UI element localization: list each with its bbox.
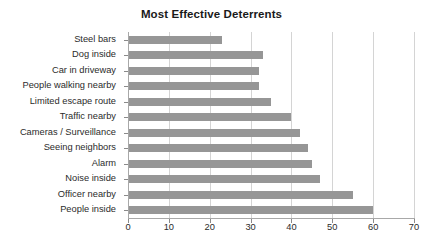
x-tick-label: 0 — [125, 222, 130, 232]
x-tick-label: 20 — [205, 222, 215, 232]
bar-row — [128, 32, 414, 48]
bar-row — [128, 79, 414, 95]
y-tick-mark — [124, 179, 128, 180]
bar[interactable] — [128, 113, 291, 121]
y-tick-mark — [124, 117, 128, 118]
y-tick-label: Cameras / Surveillance — [0, 127, 122, 137]
bar-row — [128, 48, 414, 64]
chart-title: Most Effective Deterrents — [0, 8, 423, 20]
y-tick-label: Noise inside — [0, 173, 122, 183]
y-tick-label: Seeing neighbors — [0, 142, 122, 152]
y-tick-label: Limited escape route — [0, 96, 122, 106]
y-tick-label: Steel bars — [0, 34, 122, 44]
bar-row — [128, 63, 414, 79]
bar-row — [128, 94, 414, 110]
bar[interactable] — [128, 67, 259, 75]
bar[interactable] — [128, 129, 300, 137]
chart-container: Most Effective Deterrents Steel barsDog … — [0, 0, 423, 252]
bar-row — [128, 110, 414, 126]
x-tick-mark — [291, 219, 292, 223]
bar[interactable] — [128, 98, 271, 106]
y-tick-label: Alarm — [0, 158, 122, 168]
y-tick-mark — [124, 164, 128, 165]
y-tick-label: Dog inside — [0, 49, 122, 59]
bar-row — [128, 125, 414, 141]
gridline — [414, 32, 415, 218]
y-tick-label: People walking nearby — [0, 80, 122, 90]
x-tick-mark — [251, 219, 252, 223]
bar[interactable] — [128, 206, 373, 214]
bar[interactable] — [128, 175, 320, 183]
y-tick-mark — [124, 86, 128, 87]
x-tick-mark — [373, 219, 374, 223]
x-tick-label: 50 — [327, 222, 337, 232]
y-tick-label: Officer nearby — [0, 189, 122, 199]
bar-row — [128, 172, 414, 188]
y-axis-tick-labels: Steel barsDog insideCar in drivewayPeopl… — [0, 32, 122, 218]
bar[interactable] — [128, 160, 312, 168]
y-axis-line — [128, 32, 129, 219]
x-tick-label: 70 — [409, 222, 419, 232]
bar-row — [128, 156, 414, 172]
y-tick-mark — [124, 210, 128, 211]
y-tick-mark — [124, 102, 128, 103]
x-tick-mark — [128, 219, 129, 223]
bar[interactable] — [128, 36, 222, 44]
x-tick-mark — [332, 219, 333, 223]
bar-row — [128, 187, 414, 203]
y-tick-mark — [124, 133, 128, 134]
y-tick-mark — [124, 148, 128, 149]
x-axis-line — [128, 218, 415, 219]
y-tick-label: People inside — [0, 204, 122, 214]
x-tick-label: 40 — [286, 222, 296, 232]
x-tick-label: 30 — [245, 222, 255, 232]
bar-row — [128, 203, 414, 219]
bar-row — [128, 141, 414, 157]
bar[interactable] — [128, 82, 259, 90]
x-tick-mark — [414, 219, 415, 223]
y-tick-mark — [124, 55, 128, 56]
bar[interactable] — [128, 51, 263, 59]
x-tick-label: 10 — [164, 222, 174, 232]
plot-area — [128, 32, 414, 218]
x-axis-tick-labels: 010203040506070 — [0, 222, 423, 242]
y-tick-mark — [124, 40, 128, 41]
y-tick-mark — [124, 195, 128, 196]
x-tick-mark — [169, 219, 170, 223]
bar[interactable] — [128, 144, 308, 152]
y-tick-label: Car in driveway — [0, 65, 122, 75]
x-tick-label: 60 — [368, 222, 378, 232]
y-tick-label: Traffic nearby — [0, 111, 122, 121]
y-tick-mark — [124, 71, 128, 72]
bar[interactable] — [128, 191, 353, 199]
x-tick-mark — [210, 219, 211, 223]
